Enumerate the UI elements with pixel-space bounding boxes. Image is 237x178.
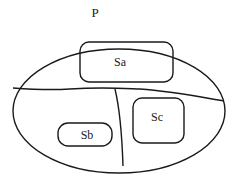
subset-sa: Sa <box>80 42 173 82</box>
subset-sc: Sc <box>133 98 184 143</box>
subset-sb-label: Sb <box>81 128 94 142</box>
subset-sa-box <box>80 42 173 82</box>
subset-sc-label: Sc <box>151 110 163 124</box>
vertical-divider <box>115 89 123 166</box>
subset-sa-label: Sa <box>114 55 127 69</box>
partition-diagram: P Sa Sb Sc <box>0 0 237 178</box>
set-p-label: P <box>91 5 98 20</box>
horizontal-divider <box>13 88 224 101</box>
subset-sb: Sb <box>58 123 112 146</box>
